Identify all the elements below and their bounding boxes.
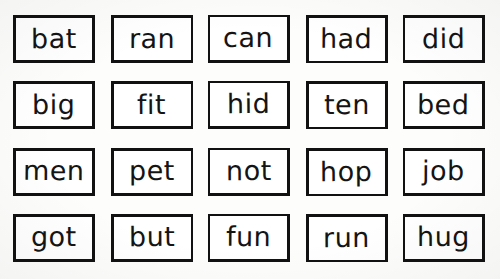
word-card-label: ran	[129, 24, 175, 51]
word-card[interactable]: had	[306, 15, 388, 63]
word-card-label: can	[223, 24, 273, 51]
word-card[interactable]: pet	[111, 148, 193, 196]
word-card-label: not	[226, 156, 272, 183]
word-card[interactable]: big	[13, 81, 95, 129]
word-card-grid: bat ran can had did big fit hid ten bed	[13, 15, 485, 262]
word-card-label: hug	[417, 223, 470, 250]
word-card[interactable]: bed	[403, 81, 485, 129]
word-card-label: fun	[226, 223, 271, 250]
word-card[interactable]: fun	[208, 214, 290, 262]
word-card-label: had	[320, 25, 373, 52]
word-card-label: job	[422, 157, 465, 184]
word-card[interactable]: ran	[111, 15, 193, 63]
word-card[interactable]: got	[13, 214, 95, 262]
word-card[interactable]: hop	[306, 148, 388, 196]
word-card-label: bat	[31, 24, 77, 51]
word-card[interactable]: men	[13, 148, 95, 196]
word-card-label: fit	[137, 91, 166, 118]
word-card[interactable]: but	[111, 214, 193, 262]
word-card-label: but	[129, 223, 176, 250]
word-card-label: bed	[417, 91, 470, 118]
word-card-label: big	[32, 91, 75, 118]
word-card[interactable]: hid	[208, 81, 290, 129]
word-card-label: ten	[324, 91, 370, 118]
word-card[interactable]: hug	[403, 214, 485, 262]
word-card-label: hid	[227, 90, 270, 117]
word-card[interactable]: fit	[111, 81, 193, 129]
word-card-label: men	[23, 157, 85, 185]
word-card[interactable]: bat	[13, 15, 95, 63]
word-card[interactable]: job	[403, 148, 485, 196]
word-card-label: did	[422, 24, 466, 51]
word-card[interactable]: did	[403, 15, 485, 63]
word-card[interactable]: can	[208, 15, 290, 63]
word-card[interactable]: run	[306, 214, 388, 262]
word-card-label: run	[323, 224, 370, 251]
word-card-label: pet	[129, 157, 175, 184]
word-card-label: got	[31, 223, 77, 250]
word-card[interactable]: not	[208, 148, 290, 196]
word-card-label: hop	[320, 157, 373, 184]
word-card-worksheet: bat ran can had did big fit hid ten bed	[0, 0, 500, 279]
word-card[interactable]: ten	[306, 81, 388, 129]
